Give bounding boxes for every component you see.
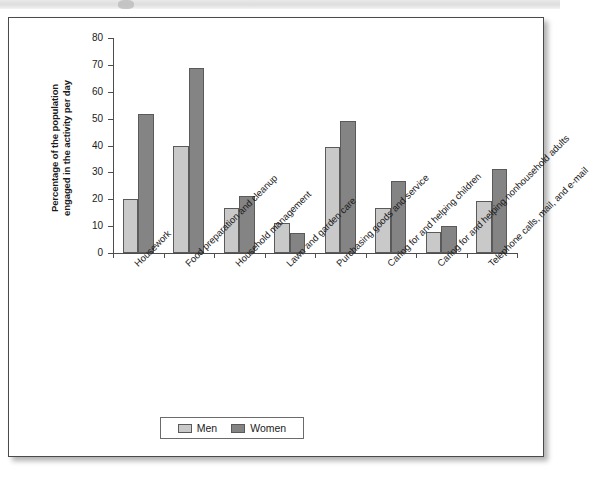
y-tick-label: 70	[73, 60, 103, 70]
bar-men	[426, 232, 442, 254]
x-tick	[214, 253, 215, 258]
y-axis-title: Percentage of the population engaged in …	[49, 40, 73, 256]
x-tick	[416, 253, 417, 258]
y-tick-label: 60	[73, 87, 103, 97]
bar-men	[173, 146, 189, 254]
y-tick-label: 20	[73, 194, 103, 204]
y-tick-label: 80	[73, 33, 103, 43]
legend-swatch-icon	[178, 424, 192, 433]
y-tick-label: 10	[73, 221, 103, 231]
legend-swatch-icon	[231, 424, 245, 433]
y-tick-label: 50	[73, 114, 103, 124]
y-tick-label: 0	[73, 248, 103, 258]
page-scan-band	[0, 0, 560, 9]
bar-men	[123, 199, 139, 253]
plot-area: 01020304050607080	[113, 38, 517, 253]
x-tick	[517, 253, 518, 258]
y-axis-title-line-2: engaged in the activity per day	[61, 40, 73, 256]
x-tick	[265, 253, 266, 258]
scan-artifact	[118, 0, 134, 9]
legend-entry: Women	[231, 423, 286, 434]
x-tick	[366, 253, 367, 258]
x-tick	[164, 253, 165, 258]
x-tick	[467, 253, 468, 258]
legend-label: Men	[197, 423, 217, 434]
figure-frame: Percentage of the population engaged in …	[8, 17, 544, 457]
bar-women	[189, 68, 205, 253]
y-tick-label: 30	[73, 167, 103, 177]
x-tick	[315, 253, 316, 258]
bar-women	[138, 114, 154, 253]
bar-group	[164, 38, 215, 253]
bar-group	[113, 38, 164, 253]
x-tick	[113, 253, 114, 258]
chart-legend: MenWomen	[160, 417, 304, 439]
legend-entry: Men	[178, 423, 217, 434]
bar-men	[325, 147, 341, 253]
y-tick-label: 40	[73, 141, 103, 151]
bar-women	[340, 121, 356, 253]
legend-label: Women	[250, 423, 286, 434]
bar-chart: Percentage of the population engaged in …	[9, 18, 543, 456]
y-axis-title-line-1: Percentage of the population	[49, 40, 61, 256]
